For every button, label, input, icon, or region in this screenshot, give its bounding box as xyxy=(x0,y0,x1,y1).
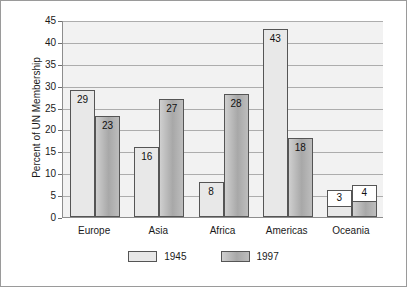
legend-swatch-1945 xyxy=(128,251,157,262)
bar-value-label: 28 xyxy=(225,99,248,109)
bar-value-label: 27 xyxy=(160,104,183,114)
bar-chart-figure: Percent of UN Membership 051015202530354… xyxy=(0,0,407,287)
chart-legend: 19451997 xyxy=(0,251,407,262)
y-axis-tick-label: 45 xyxy=(8,16,56,26)
plot-area: 29231627828431834 xyxy=(62,21,383,218)
y-axis-tick-label: 0 xyxy=(8,213,56,223)
legend-swatch-1997 xyxy=(221,251,250,262)
bar-asia-1997: 27 xyxy=(159,99,184,217)
bar-value-label: 18 xyxy=(289,143,312,153)
legend-entry-1945: 1945 xyxy=(128,251,186,262)
y-axis-tick-label: 20 xyxy=(8,125,56,135)
x-axis-tick-label-asia: Asia xyxy=(126,226,190,236)
y-axis-tick-label: 35 xyxy=(8,60,56,70)
x-axis-tick-label-europe: Europe xyxy=(62,226,126,236)
x-axis-tick-label-americas: Americas xyxy=(255,226,319,236)
bar-europe-1945: 29 xyxy=(70,90,95,217)
gridline xyxy=(63,21,383,22)
legend-label-1997: 1997 xyxy=(257,252,279,262)
bar-asia-1945: 16 xyxy=(134,147,159,217)
bar-value-label: 43 xyxy=(264,34,287,44)
legend-label-1945: 1945 xyxy=(164,252,186,262)
bar-value-label: 4 xyxy=(352,185,377,202)
bar-europe-1997: 23 xyxy=(95,116,120,217)
bar-value-label: 29 xyxy=(71,95,94,105)
y-axis-tick-label: 15 xyxy=(8,147,56,157)
bar-africa-1945: 8 xyxy=(199,182,224,217)
bar-africa-1997: 28 xyxy=(224,94,249,217)
y-axis-tick-label: 5 xyxy=(8,191,56,201)
y-axis-tick-label: 25 xyxy=(8,104,56,114)
bar-value-label: 8 xyxy=(200,187,223,197)
gridline xyxy=(63,43,383,44)
x-axis-tick-label-africa: Africa xyxy=(190,226,254,236)
gridline xyxy=(63,65,383,66)
bar-value-label: 23 xyxy=(96,121,119,131)
bar-americas-1945: 43 xyxy=(263,29,288,217)
y-axis-tick-label: 30 xyxy=(8,82,56,92)
x-axis-tick-label-oceania: Oceania xyxy=(319,226,383,236)
bar-value-label: 16 xyxy=(135,152,158,162)
y-axis-tick-label: 10 xyxy=(8,169,56,179)
y-axis-tick-mark xyxy=(58,218,62,219)
y-axis-tick-label: 40 xyxy=(8,38,56,48)
bar-value-label: 3 xyxy=(327,190,352,207)
bar-americas-1997: 18 xyxy=(288,138,313,217)
gridline xyxy=(63,87,383,88)
legend-entry-1997: 1997 xyxy=(221,251,279,262)
